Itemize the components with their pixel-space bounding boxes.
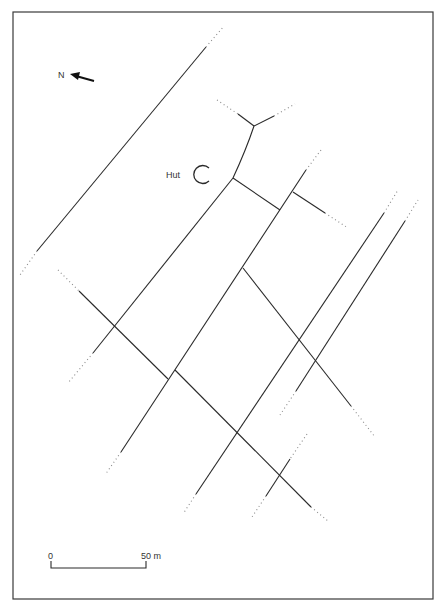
ditch-segment xyxy=(79,291,168,379)
projected-ditch-segment xyxy=(274,104,295,116)
projected-ditch-segment xyxy=(384,190,398,213)
projected-ditch-segment xyxy=(405,200,418,221)
ditch-segment xyxy=(243,268,351,406)
projected-ditch-lines xyxy=(20,26,418,521)
projected-ditch-segment xyxy=(325,213,348,228)
projected-ditch-segment xyxy=(280,391,296,415)
projected-ditch-segment xyxy=(20,251,37,275)
scale-end-label: 50 m xyxy=(141,551,161,561)
projected-ditch-segment xyxy=(306,150,321,170)
ditch-segment xyxy=(233,178,280,210)
scale-bar xyxy=(51,561,146,568)
projected-ditch-segment xyxy=(68,353,93,383)
north-label: N xyxy=(58,70,65,80)
ditch-segment xyxy=(93,178,233,353)
ditch-segment xyxy=(238,114,254,126)
hut-label: Hut xyxy=(166,170,181,180)
projected-ditch-segment xyxy=(217,100,238,114)
ditch-segment xyxy=(196,213,384,494)
ditch-segment xyxy=(121,170,306,452)
site-plan: Hut N 0 50 m xyxy=(0,0,442,604)
map-frame xyxy=(13,12,433,599)
ditch-segment xyxy=(254,116,274,126)
y-junction-stem xyxy=(233,126,254,178)
projected-ditch-segment xyxy=(311,507,328,521)
projected-ditch-segment xyxy=(58,270,79,291)
ditch-lines xyxy=(37,47,405,507)
scale-start-label: 0 xyxy=(48,551,53,561)
north-arrow-icon xyxy=(70,72,94,81)
projected-ditch-segment xyxy=(206,26,224,47)
projected-ditch-segment xyxy=(252,496,266,517)
projected-ditch-segment xyxy=(105,452,121,475)
ditch-segment xyxy=(296,221,405,391)
ditch-segment xyxy=(293,192,325,213)
hut-icon xyxy=(194,166,209,184)
projected-ditch-segment xyxy=(290,434,307,459)
projected-ditch-segment xyxy=(183,494,196,514)
projected-ditch-segment xyxy=(351,406,375,437)
ditch-segment xyxy=(175,370,311,507)
